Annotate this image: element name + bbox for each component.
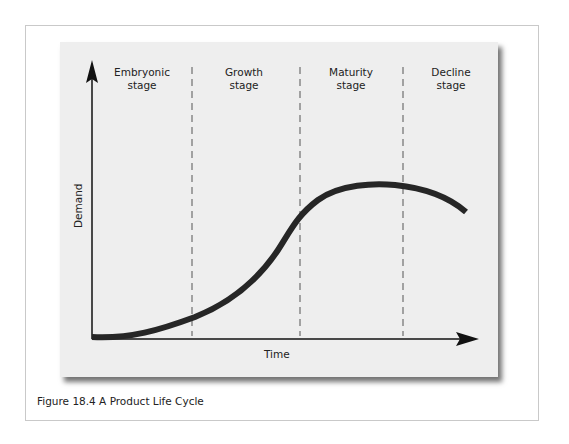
stage-label-line1: Growth xyxy=(199,66,289,79)
stage-label-embryonic: Embryonic stage xyxy=(97,66,187,92)
stage-label-maturity: Maturity stage xyxy=(306,66,396,92)
stage-label-line1: Maturity xyxy=(306,66,396,79)
stage-label-growth: Growth stage xyxy=(199,66,289,92)
stage-label-line2: stage xyxy=(406,79,496,92)
x-axis-label: Time xyxy=(264,348,290,360)
demand-curve xyxy=(92,184,466,337)
y-axis-label: Demand xyxy=(72,183,84,228)
figure-caption: Figure 18.4 A Product Life Cycle xyxy=(37,395,204,407)
stage-label-line1: Decline xyxy=(406,66,496,79)
stage-label-line2: stage xyxy=(306,79,396,92)
stage-label-decline: Decline stage xyxy=(406,66,496,92)
stage-label-line1: Embryonic xyxy=(97,66,187,79)
stage-label-line2: stage xyxy=(199,79,289,92)
stage-label-line2: stage xyxy=(97,79,187,92)
